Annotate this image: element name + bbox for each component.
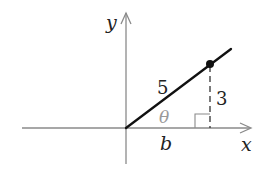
opposite-label: 3 [216, 88, 227, 109]
hypotenuse-label: 5 [157, 77, 168, 98]
x-axis-label: x [241, 133, 252, 155]
y-axis-label: y [105, 11, 117, 33]
x-axis [22, 123, 251, 133]
y-axis [121, 13, 131, 164]
terminal-point [206, 60, 214, 68]
adjacent-label: b [160, 132, 172, 154]
angle-label: θ [159, 107, 169, 127]
triangle-diagram: y x 5 3 b θ [0, 0, 273, 172]
right-angle-marker [195, 114, 210, 128]
